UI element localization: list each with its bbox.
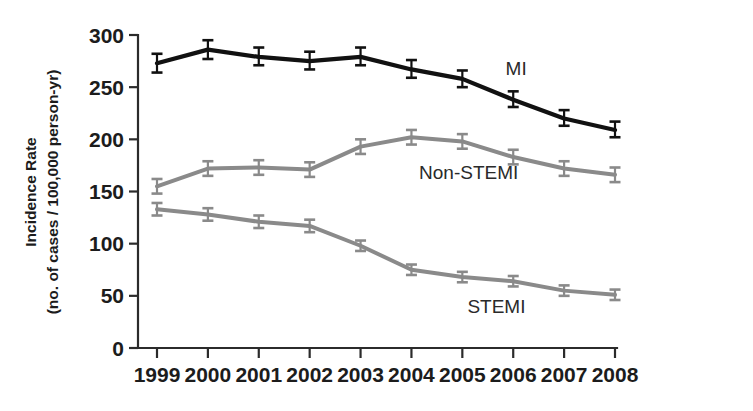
y-axis-title: Incidence Rate (no. of cases / 100,000 p… [22, 70, 61, 315]
series-label-mi: MI [506, 58, 527, 79]
y-tick-label-0: 0 [112, 337, 124, 360]
y-tick-label-50: 50 [101, 284, 124, 307]
series-line [157, 209, 615, 295]
x-tick-label-2008: 2008 [592, 363, 639, 386]
series-line [157, 50, 615, 130]
x-tick-label-2001: 2001 [235, 363, 282, 386]
chart-series-layer [152, 40, 621, 300]
x-tick-label-2002: 2002 [286, 363, 333, 386]
y-tick-label-250: 250 [89, 76, 124, 99]
series-mi [152, 40, 621, 137]
x-axis-ticks: 1999200020012002200320042005200620072008 [134, 348, 639, 386]
incidence-rate-line-chart: 050100150200250300 199920002001200220032… [0, 0, 753, 411]
x-tick-label-2006: 2006 [490, 363, 537, 386]
x-tick-label-2005: 2005 [439, 363, 486, 386]
chart-axes [138, 35, 617, 348]
y-tick-label-200: 200 [89, 128, 124, 151]
x-tick-label-1999: 1999 [134, 363, 181, 386]
x-tick-label-2000: 2000 [185, 363, 232, 386]
x-tick-label-2007: 2007 [541, 363, 588, 386]
series-stemi [152, 203, 621, 300]
y-axis-title-line2: (no. of cases / 100,000 person-yr) [44, 70, 61, 315]
x-tick-label-2003: 2003 [337, 363, 384, 386]
series-label-stemi: STEMI [467, 296, 525, 317]
y-axis-title-line1: Incidence Rate [22, 137, 39, 247]
y-tick-label-150: 150 [89, 180, 124, 203]
x-tick-label-2004: 2004 [388, 363, 435, 386]
y-tick-label-100: 100 [89, 232, 124, 255]
y-tick-label-300: 300 [89, 24, 124, 47]
series-line [157, 137, 615, 186]
series-non-stemi [152, 130, 621, 194]
y-axis-ticks: 050100150200250300 [89, 24, 138, 360]
chart-figure: 050100150200250300 199920002001200220032… [0, 0, 753, 411]
series-label-non-stemi: Non-STEMI [419, 162, 518, 183]
